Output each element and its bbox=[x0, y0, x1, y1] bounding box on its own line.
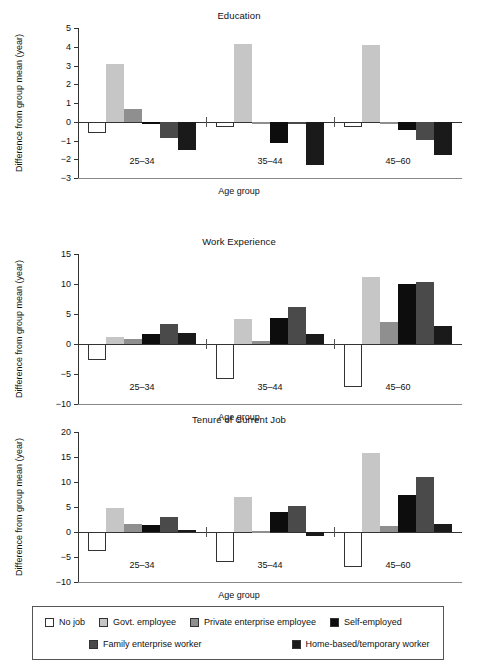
group-label: 45–60 bbox=[385, 560, 410, 570]
y-axis-line bbox=[78, 432, 79, 582]
legend-label-govt-employee: Govt. employee bbox=[113, 617, 176, 627]
bar-govt-employee bbox=[234, 44, 252, 122]
bar-home-based-temporary-worker bbox=[306, 334, 324, 344]
bar-private-enterprise-employee bbox=[380, 322, 398, 344]
bar-family-enterprise-worker bbox=[160, 517, 178, 533]
legend-swatch-govt-employee bbox=[99, 618, 108, 627]
bar-govt-employee bbox=[234, 497, 252, 532]
bar-private-enterprise-employee bbox=[124, 109, 142, 122]
bar-family-enterprise-worker bbox=[416, 477, 434, 532]
x-axis-baseline bbox=[78, 404, 462, 405]
group-label: 35–44 bbox=[257, 560, 282, 570]
y-tick-mark bbox=[74, 432, 78, 433]
bar-govt-employee bbox=[106, 337, 124, 344]
bar-self-employed bbox=[398, 284, 416, 344]
legend-swatch-private-enterprise-employee bbox=[190, 618, 199, 627]
bar-self-employed bbox=[398, 122, 416, 130]
bar-self-employed bbox=[142, 122, 160, 124]
group-separator bbox=[334, 117, 335, 127]
x-axis-baseline bbox=[78, 178, 462, 179]
bar-self-employed bbox=[142, 334, 160, 344]
y-tick-label: 3 bbox=[38, 61, 71, 71]
legend-swatch-no-job bbox=[45, 618, 54, 627]
bar-family-enterprise-worker bbox=[160, 122, 178, 138]
y-tick-label: 15 bbox=[38, 249, 71, 259]
bar-no-job bbox=[88, 122, 106, 133]
y-tick-mark bbox=[74, 141, 78, 142]
x-axis-baseline bbox=[78, 582, 462, 583]
y-tick-label: 0 bbox=[38, 339, 71, 349]
y-tick-label: 0 bbox=[38, 527, 71, 537]
legend-item-private-enterprise-employee: Private enterprise employee bbox=[190, 617, 316, 627]
y-tick-label: −10 bbox=[38, 577, 71, 587]
bar-family-enterprise-worker bbox=[416, 282, 434, 344]
group-label: 25–34 bbox=[129, 560, 154, 570]
y-axis-label: Difference from group mean (year) bbox=[14, 28, 24, 178]
bar-no-job bbox=[88, 532, 106, 551]
legend-box: No job Govt. employee Private enterprise… bbox=[32, 606, 444, 660]
chart-title: Education bbox=[0, 10, 478, 21]
chart-panel-education: EducationDifference from group mean (yea… bbox=[0, 10, 478, 206]
y-tick-mark bbox=[74, 159, 78, 160]
zero-line bbox=[78, 532, 462, 533]
group-separator bbox=[334, 527, 335, 537]
bar-self-employed bbox=[270, 512, 288, 533]
bar-self-employed bbox=[270, 122, 288, 144]
bar-home-based-temporary-worker bbox=[306, 532, 324, 536]
y-tick-mark bbox=[74, 557, 78, 558]
bar-no-job bbox=[344, 532, 362, 567]
y-tick-label: 0 bbox=[38, 117, 71, 127]
y-tick-mark bbox=[74, 284, 78, 285]
bar-home-based-temporary-worker bbox=[178, 122, 196, 150]
bar-private-enterprise-employee bbox=[380, 526, 398, 532]
y-tick-label: −2 bbox=[38, 154, 71, 164]
bar-govt-employee bbox=[362, 45, 380, 122]
y-tick-label: 1 bbox=[38, 98, 71, 108]
legend-item-govt-employee: Govt. employee bbox=[99, 617, 176, 627]
y-tick-label: 5 bbox=[38, 23, 71, 33]
legend-label-no-job: No job bbox=[59, 617, 85, 627]
group-separator bbox=[206, 117, 207, 127]
y-tick-mark bbox=[74, 66, 78, 67]
y-axis-label: Difference from group mean (year) bbox=[14, 254, 24, 404]
legend-item-home-based-temporary-worker: Home-based/temporary worker bbox=[292, 639, 430, 649]
legend-swatch-home-based-temporary-worker bbox=[292, 640, 301, 649]
y-tick-label: 2 bbox=[38, 79, 71, 89]
y-tick-label: 20 bbox=[38, 427, 71, 437]
bar-family-enterprise-worker bbox=[288, 122, 306, 124]
bar-home-based-temporary-worker bbox=[178, 530, 196, 533]
chart-panel-work-experience: Work ExperienceDifference from group mea… bbox=[0, 236, 478, 432]
legend-label-family-enterprise-worker: Family enterprise worker bbox=[103, 639, 202, 649]
bar-govt-employee bbox=[106, 64, 124, 122]
bar-govt-employee bbox=[234, 319, 252, 344]
bar-self-employed bbox=[270, 318, 288, 344]
bar-private-enterprise-employee bbox=[252, 122, 270, 124]
y-tick-label: 10 bbox=[38, 279, 71, 289]
legend-swatch-self-employed bbox=[330, 618, 339, 627]
bar-home-based-temporary-worker bbox=[434, 326, 452, 344]
legend-label-home-based-temporary-worker: Home-based/temporary worker bbox=[306, 639, 430, 649]
figure-root: EducationDifference from group mean (yea… bbox=[0, 0, 478, 671]
y-tick-label: −5 bbox=[38, 552, 71, 562]
legend-row-2: Family enterprise worker Home-based/temp… bbox=[33, 634, 443, 654]
bar-home-based-temporary-worker bbox=[434, 122, 452, 155]
bar-no-job bbox=[216, 344, 234, 379]
bar-self-employed bbox=[142, 525, 160, 533]
chart-title: Tenure of Current Job bbox=[0, 414, 478, 425]
bar-private-enterprise-employee bbox=[380, 122, 398, 124]
y-axis-line bbox=[78, 254, 79, 404]
group-label: 25–34 bbox=[129, 382, 154, 392]
y-tick-mark bbox=[74, 84, 78, 85]
legend-item-family-enterprise-worker: Family enterprise worker bbox=[89, 639, 202, 649]
bar-govt-employee bbox=[362, 277, 380, 344]
bar-no-job bbox=[216, 122, 234, 128]
bar-govt-employee bbox=[362, 453, 380, 533]
group-label: 35–44 bbox=[257, 156, 282, 166]
legend-item-self-employed: Self-employed bbox=[330, 617, 402, 627]
bar-self-employed bbox=[398, 495, 416, 532]
bar-no-job bbox=[344, 344, 362, 387]
group-label: 45–60 bbox=[385, 156, 410, 166]
bar-private-enterprise-employee bbox=[124, 524, 142, 533]
bar-family-enterprise-worker bbox=[160, 324, 178, 344]
legend-row-1: No job Govt. employee Private enterprise… bbox=[33, 612, 443, 632]
